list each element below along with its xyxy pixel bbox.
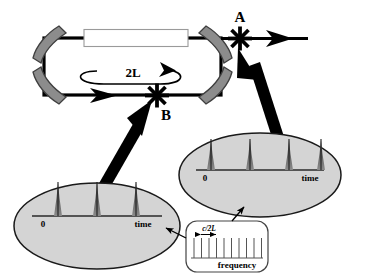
laser-cavity-diagram: 2L A — [0, 0, 368, 279]
axis-label-a: time — [302, 173, 319, 183]
comb-axis-label: frequency — [218, 260, 257, 270]
mirror-bottom-left — [33, 67, 66, 104]
comb-spacing-label: c/2L — [202, 224, 216, 233]
axis-origin-label-a: 0 — [203, 173, 208, 183]
star-marker-a — [228, 27, 252, 51]
mirror-bottom-right — [199, 67, 232, 104]
label-a: A — [235, 9, 246, 25]
pointer-b-to-inset — [98, 100, 152, 191]
gain-medium-rod — [84, 30, 188, 47]
inset-frequency-comb: c/2L frequency — [186, 221, 268, 272]
round-trip-label: 2L — [125, 65, 141, 80]
label-b: B — [161, 107, 171, 123]
figure-root: 2L A — [0, 0, 368, 279]
inset-pulse-train-a: 0 time — [179, 133, 341, 217]
mirror-top-left — [33, 26, 66, 63]
mirror-top-right — [199, 26, 232, 63]
axis-label-b: time — [135, 219, 152, 229]
inset-pulse-train-b: 0 time — [14, 182, 180, 269]
axis-origin-label-b: 0 — [41, 219, 46, 229]
